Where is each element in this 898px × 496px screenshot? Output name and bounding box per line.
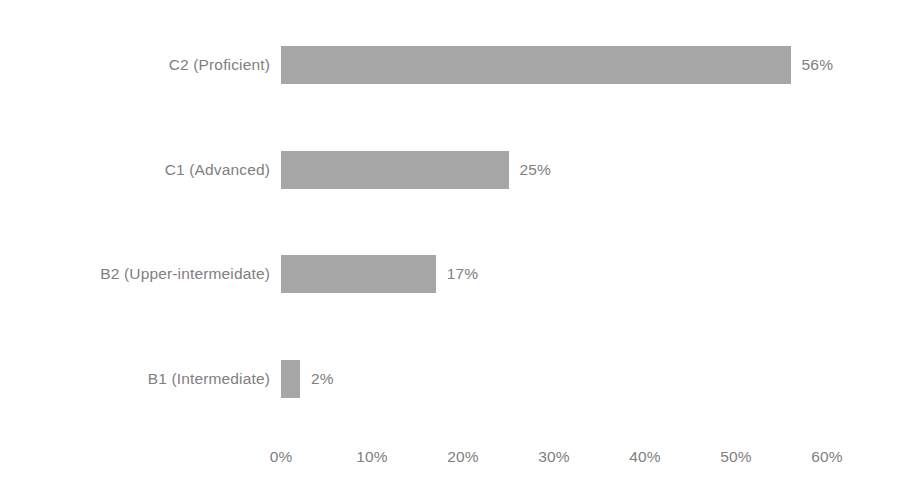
- x-axis-tick-label: 40%: [605, 445, 685, 469]
- category-label: C1 (Advanced): [0, 151, 270, 189]
- bar-row: C1 (Advanced)25%: [0, 151, 898, 189]
- bar-group: 2%: [281, 360, 334, 398]
- x-axis-tick-label: 30%: [514, 445, 594, 469]
- x-axis-tick-label: 10%: [332, 445, 412, 469]
- category-label: C2 (Proficient): [0, 46, 270, 84]
- x-axis-tick-label: 50%: [696, 445, 776, 469]
- bar: [281, 360, 300, 398]
- bar-row: C2 (Proficient)56%: [0, 46, 898, 84]
- x-axis-tick-label: 60%: [787, 445, 867, 469]
- x-axis-tick-label: 20%: [423, 445, 503, 469]
- plot-area: C2 (Proficient)56%C1 (Advanced)25%B2 (Up…: [0, 0, 898, 496]
- bar-group: 56%: [281, 46, 833, 84]
- category-label: B1 (Intermediate): [0, 360, 270, 398]
- bar: [281, 151, 509, 189]
- bar-row: B2 (Upper-intermeidate)17%: [0, 255, 898, 293]
- bar-value-label: 17%: [447, 255, 478, 293]
- bar-value-label: 2%: [311, 360, 334, 398]
- category-label: B2 (Upper-intermeidate): [0, 255, 270, 293]
- bar-group: 25%: [281, 151, 551, 189]
- bar-chart: C2 (Proficient)56%C1 (Advanced)25%B2 (Up…: [0, 0, 898, 496]
- x-axis: 0%10%20%30%40%50%60%: [0, 445, 898, 475]
- bar: [281, 46, 791, 84]
- bar-value-label: 56%: [802, 46, 833, 84]
- bar-value-label: 25%: [520, 151, 551, 189]
- bar-row: B1 (Intermediate)2%: [0, 360, 898, 398]
- x-axis-tick-label: 0%: [241, 445, 321, 469]
- bar-group: 17%: [281, 255, 478, 293]
- bar: [281, 255, 436, 293]
